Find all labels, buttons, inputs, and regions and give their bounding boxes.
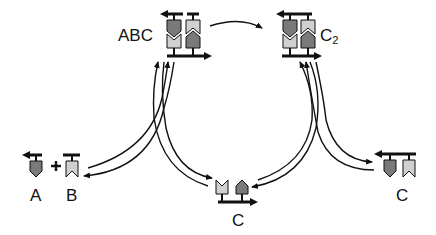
c-right-icon [374, 150, 416, 177]
c-right-label: C [396, 187, 408, 204]
c-right-to-c2-arrow [306, 62, 374, 170]
c-to-c2-arrow [258, 62, 312, 180]
c2-complex-icon [276, 10, 322, 60]
abc-to-c2-arrow [210, 21, 262, 28]
a-monomer-icon [22, 151, 42, 177]
c-to-abc-arrow [154, 62, 209, 186]
c-center-icon [216, 180, 258, 206]
abc-to-ab-arrow [84, 62, 174, 176]
c-center-label: C [232, 212, 244, 229]
c2-label: C2 [320, 27, 338, 46]
a-label: A [30, 187, 41, 204]
plus-sign-icon [51, 161, 61, 171]
c2-subscript: 2 [332, 34, 338, 46]
c2-label-text: C [320, 26, 332, 45]
b-label: B [66, 187, 77, 204]
abc-label: ABC [118, 27, 153, 44]
abc-complex-icon [160, 10, 212, 60]
ab-to-abc-arrow [88, 62, 168, 168]
b-monomer-icon [63, 155, 80, 177]
